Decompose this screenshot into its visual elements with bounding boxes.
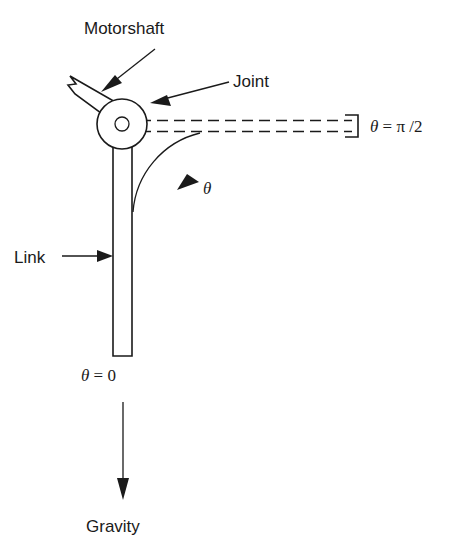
link-label: Link [14,248,46,267]
robot-link-diagram: θ Motorshaft Joint Link θ = 0 [0,0,449,545]
link-callout: Link [14,248,113,267]
angle-arc-arrow-icon [177,174,199,190]
theta-halfpi-group: θ = π /2 [370,117,423,136]
gravity-callout: Gravity [86,402,140,536]
diagram-canvas: θ Motorshaft Joint Link θ = 0 [0,0,449,545]
theta-halfpi-label: θ = π /2 [370,117,423,136]
link-ghost-horizontal [140,115,358,137]
motorshaft-callout: Motorshaft [84,19,165,92]
callout-arrow-icon [150,95,171,106]
motorshaft-label: Motorshaft [84,19,165,38]
joint-label: Joint [233,72,269,91]
callout-arrow-icon [97,250,113,262]
gravity-label: Gravity [86,517,140,536]
gravity-arrow-icon [117,478,129,500]
link-bar [113,120,132,356]
theta-zero-group: θ = 0 [81,366,116,385]
angle-arc: θ [133,133,211,212]
theta-zero-label: θ = 0 [81,366,116,385]
joint-callout: Joint [150,72,269,106]
joint-hub [97,99,147,149]
theta-arc-label: θ [203,179,211,198]
